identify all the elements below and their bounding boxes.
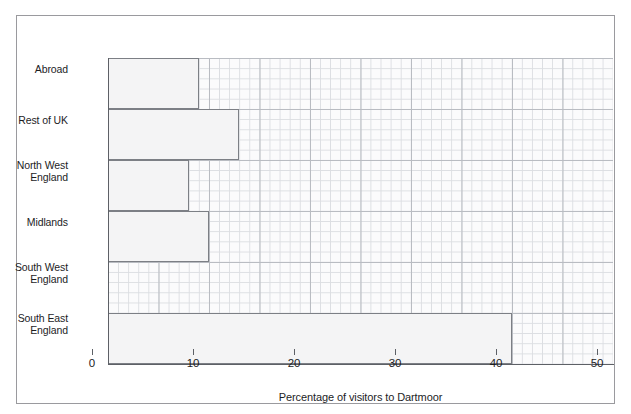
y-axis-category-label-line: Abroad bbox=[0, 63, 68, 75]
x-axis-tick-mark bbox=[92, 349, 93, 355]
y-axis-category-label: South EastEngland bbox=[0, 312, 68, 336]
bar-band bbox=[108, 109, 613, 160]
y-axis-category-label-line: Midlands bbox=[0, 216, 68, 228]
y-axis-category-label-line: England bbox=[0, 273, 68, 285]
y-axis-category-label-line: North West bbox=[0, 159, 68, 171]
y-axis-category-label-line: South East bbox=[0, 312, 68, 324]
y-axis-category-label: North WestEngland bbox=[0, 159, 68, 183]
x-axis-tick-label: 10 bbox=[173, 357, 213, 369]
x-axis-tick-label: 0 bbox=[72, 357, 112, 369]
bar[interactable] bbox=[108, 160, 189, 211]
y-axis-category-label-line: South West bbox=[0, 261, 68, 273]
x-axis-tick-mark bbox=[496, 349, 497, 355]
y-axis-line bbox=[108, 58, 109, 365]
y-axis-category-label-line: England bbox=[0, 324, 68, 336]
bars-layer bbox=[108, 58, 613, 364]
x-axis-tick-label: 50 bbox=[577, 357, 617, 369]
x-axis-tick-mark bbox=[395, 349, 396, 355]
bar[interactable] bbox=[108, 109, 239, 160]
plot-area bbox=[108, 58, 613, 364]
bar-band bbox=[108, 262, 613, 313]
x-axis-tick-mark bbox=[294, 349, 295, 355]
y-axis-category-label: Rest of UK bbox=[0, 114, 68, 126]
y-axis-category-label-line: Rest of UK bbox=[0, 114, 68, 126]
y-axis-category-label: Midlands bbox=[0, 216, 68, 228]
y-axis-category-label: South WestEngland bbox=[0, 261, 68, 285]
x-axis-tick-label: 20 bbox=[274, 357, 314, 369]
bar[interactable] bbox=[108, 58, 199, 109]
x-axis-tick-label: 40 bbox=[476, 357, 516, 369]
bar-band bbox=[108, 160, 613, 211]
x-axis-tick-mark bbox=[193, 349, 194, 355]
x-axis-tick-label: 30 bbox=[375, 357, 415, 369]
bar-band bbox=[108, 211, 613, 262]
figure-frame: 01020304050 AbroadRest of UKNorth WestEn… bbox=[16, 15, 615, 404]
y-axis-category-label: Abroad bbox=[0, 63, 68, 75]
y-axis-category-label-line: England bbox=[0, 171, 68, 183]
bar[interactable] bbox=[108, 211, 209, 262]
x-axis-title: Percentage of visitors to Dartmoor bbox=[108, 391, 613, 403]
bar-band bbox=[108, 58, 613, 109]
x-axis-tick-mark bbox=[597, 349, 598, 355]
